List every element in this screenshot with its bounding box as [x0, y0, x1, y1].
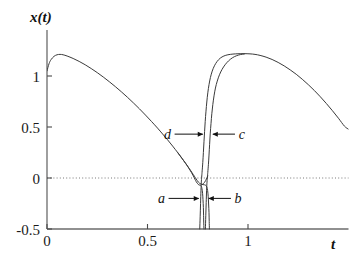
- y-tick-label-1: 0.5: [21, 120, 40, 136]
- annotation-label-c: c: [239, 127, 246, 142]
- x-tick-label-0: 0: [43, 233, 51, 249]
- annotation-label-a: a: [158, 191, 165, 206]
- y-axis-label: x(t): [29, 9, 52, 26]
- chart-background: [0, 0, 350, 265]
- line-chart: dcab 10.50-0.500.51 x(t) t: [0, 0, 350, 265]
- annotation-label-d: d: [164, 127, 172, 142]
- x-tick-label-2: 1: [244, 233, 252, 249]
- y-tick-label-2: 0: [33, 171, 41, 187]
- y-tick-label-3: -0.5: [16, 222, 40, 238]
- y-tick-label-0: 1: [33, 69, 41, 85]
- chart-container: dcab 10.50-0.500.51 x(t) t: [0, 0, 350, 265]
- annotation-label-b: b: [234, 191, 241, 206]
- x-tick-label-1: 0.5: [138, 233, 157, 249]
